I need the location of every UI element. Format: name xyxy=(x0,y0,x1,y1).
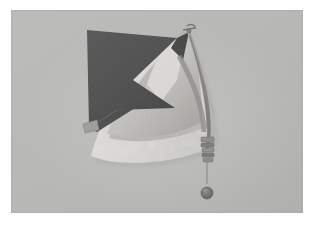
film-grain-overlay xyxy=(11,10,303,213)
photograph-plate xyxy=(11,10,303,213)
photo-frame: kite-like sculpture with dark triangular… xyxy=(0,0,321,228)
kite-sculpture-illustration xyxy=(11,10,303,213)
